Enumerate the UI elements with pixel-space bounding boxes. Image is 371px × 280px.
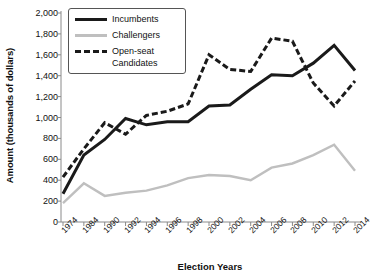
legend-label-incumbents: Incumbents — [109, 13, 159, 25]
legend-label-open-seat: Open-seatCandidates — [109, 45, 158, 69]
series-line-challengers — [63, 145, 355, 204]
x-axis-tick-labels: 1974198419901992199419961998200020022004… — [0, 228, 368, 260]
legend-item-open-seat: Open-seatCandidates — [75, 45, 180, 71]
x-axis-title: Election Years — [60, 261, 360, 272]
legend-label-challengers: Challengers — [109, 29, 160, 41]
legend-item-incumbents: Incumbents — [75, 13, 180, 26]
legend-swatch-incumbents-icon — [75, 13, 109, 26]
chart-legend: Incumbents Challengers Open-seatCandidat… — [68, 8, 186, 74]
legend-swatch-challengers-icon — [75, 29, 109, 42]
legend-label-open-seat-line1: Open-seat — [112, 46, 154, 56]
legend-label-open-seat-line2: Candidates — [112, 58, 158, 68]
legend-swatch-open-seat-icon — [75, 45, 109, 58]
legend-item-challengers: Challengers — [75, 29, 180, 42]
